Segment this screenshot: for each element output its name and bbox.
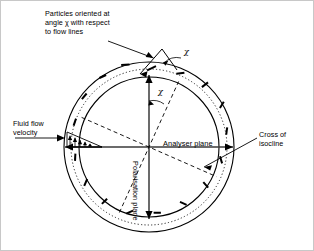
label-polarisation-plane: Polarisation plane bbox=[131, 161, 140, 221]
leader-line-particles bbox=[108, 41, 154, 58]
figure-container: Particles oriented at angle χ with respe… bbox=[0, 0, 314, 251]
label-chi-outer: χ bbox=[184, 47, 189, 56]
label-analyser-plane: Analyser plane bbox=[163, 139, 213, 148]
label-cross-of-isocline: Cross of isocline bbox=[259, 130, 286, 148]
label-chi-inner: χ bbox=[158, 87, 163, 96]
diagram-canvas bbox=[1, 1, 313, 250]
label-fluid-flow-velocity: Fluid flow velocity bbox=[13, 119, 44, 137]
label-particles-orientation: Particles oriented at angle χ with respe… bbox=[45, 9, 110, 37]
chi-outer-vertex-rays bbox=[140, 49, 177, 74]
